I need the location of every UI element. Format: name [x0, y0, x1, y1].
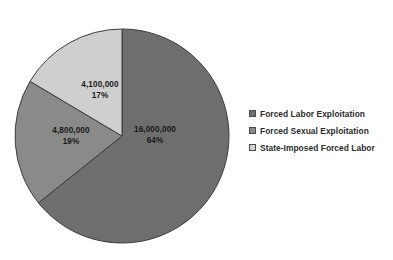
square-swatch-icon: [249, 127, 256, 134]
square-swatch-icon: [249, 144, 256, 151]
pie-chart-figure: 16,000,000 64% 4,800,000 19% 4,100,000 1…: [0, 0, 393, 260]
legend-item-label: State-Imposed Forced Labor: [260, 143, 375, 153]
legend-item-forced-labor-exploitation[interactable]: Forced Labor Exploitation: [249, 106, 393, 121]
legend-item-forced-sexual-exploitation[interactable]: Forced Sexual Exploitation: [249, 123, 393, 138]
pie-slice-group: [15, 29, 229, 243]
legend-item-label: Forced Sexual Exploitation: [260, 126, 369, 136]
slice-label-value: 16,000,000: [134, 124, 176, 135]
pie-plot-area: 16,000,000 64% 4,800,000 19% 4,100,000 1…: [0, 0, 250, 260]
slice-label-value: 4,100,000: [81, 79, 118, 90]
slice-label-percent: 17%: [81, 90, 118, 101]
chart-legend: Forced Labor Exploitation Forced Sexual …: [249, 106, 393, 157]
slice-label-value: 4,800,000: [52, 125, 89, 136]
legend-item-label: Forced Labor Exploitation: [260, 109, 365, 119]
legend-item-state-imposed-forced-labor[interactable]: State-Imposed Forced Labor: [249, 140, 393, 155]
slice-label-percent: 64%: [134, 135, 176, 146]
slice-label-percent: 19%: [52, 136, 89, 147]
pie-chart-svg: [0, 0, 250, 260]
slice-label-forced-sexual-exploitation: 4,800,000 19%: [52, 125, 89, 147]
slice-label-state-imposed-forced-labor: 4,100,000 17%: [81, 79, 118, 101]
slice-label-forced-labor-exploitation: 16,000,000 64%: [134, 124, 176, 146]
square-swatch-icon: [249, 110, 256, 117]
